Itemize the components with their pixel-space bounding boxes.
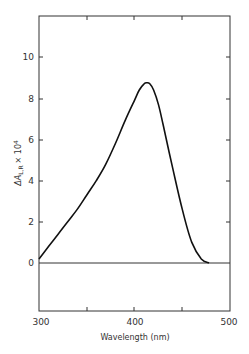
- y-ticks-left: [39, 57, 43, 222]
- x-ticks-top: [87, 16, 182, 20]
- x-tick-label-400: 400: [126, 317, 143, 327]
- y-tick-label-4: 4: [28, 176, 34, 186]
- y-tick-label-2: 2: [28, 217, 34, 227]
- y-tick-label-8: 8: [28, 94, 34, 104]
- y-ticks-right: [226, 57, 230, 222]
- y-axis-title: ΔAL,R× 104: [12, 140, 24, 187]
- x-tick-label-300: 300: [32, 317, 49, 327]
- y-tick-label-10: 10: [23, 52, 35, 62]
- data-series-line: [39, 83, 209, 263]
- y-tick-label-6: 6: [28, 135, 34, 145]
- plot-frame: [39, 16, 230, 311]
- x-axis-title: Wavelength (nm): [100, 333, 169, 342]
- x-tick-label-500: 500: [220, 317, 237, 327]
- x-ticks-bottom: [87, 307, 182, 311]
- y-tick-label-0: 0: [28, 258, 34, 268]
- chart: 10 8 6 4 2 0 300 400 500 Wavelength (nm)…: [0, 0, 249, 354]
